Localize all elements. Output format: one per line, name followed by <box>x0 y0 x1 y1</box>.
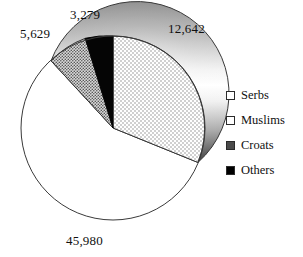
data-label-croats: 5,629 <box>20 27 50 40</box>
legend-item-serbs: Serbs <box>226 88 302 102</box>
legend-label-serbs: Serbs <box>241 89 269 102</box>
legend-swatch-muslims-icon <box>226 116 235 125</box>
legend-label-croats: Croats <box>241 139 274 152</box>
legend-swatch-croats-icon <box>226 141 235 150</box>
legend-label-muslims: Muslims <box>241 114 285 127</box>
legend-item-muslims: Muslims <box>226 113 302 127</box>
data-label-serbs: 12,642 <box>168 22 205 35</box>
legend-swatch-serbs-icon <box>226 91 235 100</box>
legend-swatch-others-icon <box>226 166 235 175</box>
pie-chart-figure: 12,642 3,279 5,629 45,980 Serbs Muslims … <box>0 0 303 257</box>
data-label-others: 3,279 <box>70 8 100 21</box>
data-label-muslims: 45,980 <box>66 234 103 247</box>
legend-label-others: Others <box>241 164 274 177</box>
legend-item-others: Others <box>226 163 302 177</box>
legend-item-croats: Croats <box>226 138 302 152</box>
chart-legend: Serbs Muslims Croats Others <box>226 88 302 177</box>
